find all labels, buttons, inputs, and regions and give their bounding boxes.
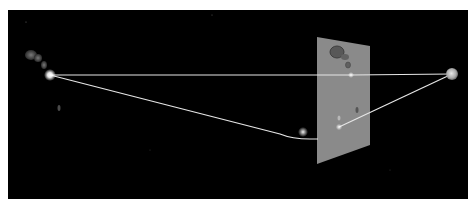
- observer-earth-icon: [446, 68, 458, 80]
- image-point-lower: [336, 124, 342, 130]
- image-point-upper: [348, 72, 354, 78]
- source-star: [44, 69, 56, 81]
- lens-object: [298, 127, 308, 137]
- space-background: [8, 10, 468, 199]
- lensing-diagram: [0, 0, 471, 201]
